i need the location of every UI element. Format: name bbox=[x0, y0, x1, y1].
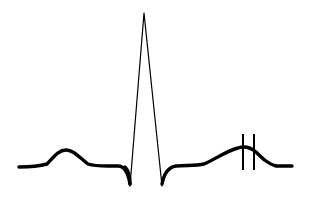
ecg-diagram bbox=[0, 0, 310, 198]
qrs-complex bbox=[130, 13, 162, 186]
q-wave bbox=[125, 167, 130, 184]
t-wave bbox=[162, 147, 292, 184]
p-wave bbox=[19, 150, 130, 184]
